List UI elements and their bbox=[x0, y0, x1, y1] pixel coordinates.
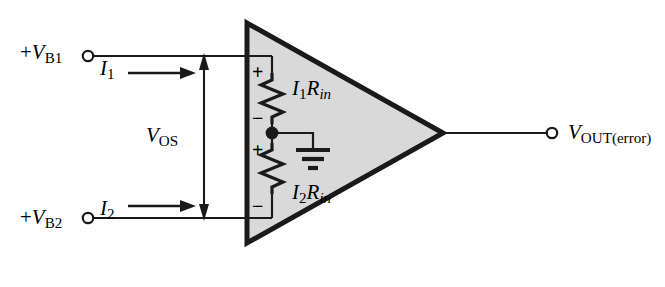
label-resistor-bottom-drop: I2Rin bbox=[292, 182, 331, 206]
bottom-input-terminal-circle bbox=[83, 213, 93, 223]
i1-subscript: 1 bbox=[107, 66, 115, 82]
vos-subscript: OS bbox=[159, 133, 178, 149]
offset-voltage-arrow bbox=[199, 53, 209, 221]
polarity-top-resistor-plus: + bbox=[252, 62, 263, 82]
label-input-top-vb1: +VB1 bbox=[20, 42, 62, 66]
label-resistor-top-drop: I1Rin bbox=[292, 78, 331, 102]
r2-current-variable: I bbox=[292, 180, 299, 204]
circuit-diagram-figure: +VB1 +VB2 I1 I2 VOS I1Rin I2Rin VOUT(err… bbox=[0, 0, 665, 287]
vos-variable: V bbox=[146, 123, 159, 147]
vb2-variable: V bbox=[32, 205, 45, 229]
polarity-top-resistor-minus: − bbox=[252, 108, 263, 128]
vout-variable: V bbox=[568, 120, 581, 144]
r1-current-subscript: 1 bbox=[299, 86, 307, 102]
vb2-subscript: B2 bbox=[45, 215, 63, 231]
label-current-i1: I1 bbox=[100, 58, 115, 82]
i1-variable: I bbox=[100, 56, 107, 80]
output-terminal-circle bbox=[547, 128, 557, 138]
r2-current-subscript: 2 bbox=[299, 190, 307, 206]
r1-current-variable: I bbox=[292, 76, 299, 100]
label-input-bottom-vb2: +VB2 bbox=[20, 207, 62, 231]
r1-res-subscript: in bbox=[319, 86, 331, 102]
circuit-schematic-svg bbox=[0, 0, 665, 287]
r1-res-variable: R bbox=[307, 76, 320, 100]
vout-subscript: OUT(error) bbox=[581, 130, 651, 146]
current-arrow-i1 bbox=[128, 67, 196, 79]
vb1-variable: V bbox=[32, 40, 45, 64]
top-input-terminal-circle bbox=[83, 51, 93, 61]
label-current-i2: I2 bbox=[100, 198, 115, 222]
r2-res-subscript: in bbox=[319, 190, 331, 206]
current-arrow-i2 bbox=[128, 200, 196, 212]
vb1-subscript: B1 bbox=[45, 50, 63, 66]
label-output-vout-error: VOUT(error) bbox=[568, 122, 651, 146]
polarity-bottom-resistor-plus: + bbox=[252, 140, 263, 160]
vb1-prefix: + bbox=[20, 40, 32, 64]
i2-variable: I bbox=[100, 196, 107, 220]
i2-subscript: 2 bbox=[107, 206, 115, 222]
polarity-bottom-resistor-minus: − bbox=[252, 196, 263, 216]
r2-res-variable: R bbox=[307, 180, 320, 204]
label-offset-voltage-vos: VOS bbox=[146, 125, 178, 149]
vb2-prefix: + bbox=[20, 205, 32, 229]
